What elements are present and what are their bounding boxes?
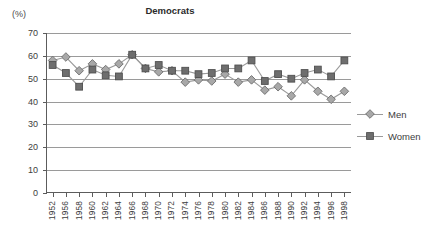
- data-point: [116, 73, 123, 80]
- data-point: [182, 67, 189, 74]
- x-tick-mark: [92, 193, 93, 197]
- legend: MenWomen: [357, 103, 443, 147]
- x-tick-label: 1992: [300, 201, 309, 220]
- x-tick-mark: [225, 193, 226, 197]
- x-tick-label: 1986: [260, 201, 269, 220]
- data-point: [169, 67, 176, 74]
- x-tick-mark: [159, 193, 160, 197]
- series-layer: [46, 33, 351, 193]
- x-tick-mark: [238, 193, 239, 197]
- x-tick-mark: [106, 193, 107, 197]
- x-tick-mark: [291, 193, 292, 197]
- x-tick-mark: [252, 193, 253, 197]
- x-tick-label: 1984: [247, 201, 256, 220]
- data-point: [261, 78, 268, 85]
- x-tick-label: 1972: [167, 201, 176, 220]
- data-point: [274, 82, 283, 91]
- data-point: [275, 71, 282, 78]
- x-tick-mark: [145, 193, 146, 197]
- x-tick-label: 1964: [114, 201, 123, 220]
- data-point: [248, 57, 255, 64]
- x-tick-label: 1990: [287, 201, 296, 220]
- data-point: [155, 62, 162, 69]
- data-point: [89, 66, 96, 73]
- data-point: [314, 66, 321, 73]
- x-axis: 1952195619581960196219641966196819701972…: [46, 193, 351, 238]
- x-tick-label: 1952: [48, 201, 57, 220]
- x-tick-mark: [66, 193, 67, 197]
- x-tick-label: 1998: [340, 201, 349, 220]
- data-point: [76, 83, 83, 90]
- y-tick-label: 0: [0, 188, 38, 198]
- data-point: [327, 95, 336, 104]
- x-tick-label: 1962: [101, 201, 110, 220]
- x-tick-label: 1956: [61, 201, 70, 220]
- x-tick-mark: [79, 193, 80, 197]
- data-point: [340, 87, 349, 96]
- y-tick-label: 20: [0, 142, 38, 152]
- data-point: [62, 70, 69, 77]
- x-tick-mark: [132, 193, 133, 197]
- x-tick-mark: [212, 193, 213, 197]
- x-tick-label: 1980: [221, 201, 230, 220]
- data-point: [115, 60, 124, 69]
- x-tick-mark: [53, 193, 54, 197]
- x-tick-mark: [278, 193, 279, 197]
- data-point: [328, 73, 335, 80]
- x-tick-label: 1978: [207, 201, 216, 220]
- square-marker-icon: [357, 130, 383, 142]
- x-tick-label: 1996: [327, 201, 336, 220]
- x-tick-mark: [305, 193, 306, 197]
- x-tick-label: 1968: [141, 201, 150, 220]
- y-tick-label: 30: [0, 119, 38, 129]
- data-point: [234, 78, 243, 87]
- diamond-marker-icon: [357, 108, 383, 120]
- x-tick-mark: [199, 193, 200, 197]
- x-tick-mark: [318, 193, 319, 197]
- y-tick-label: 60: [0, 51, 38, 61]
- y-tick-label: 10: [0, 165, 38, 175]
- x-tick-mark: [172, 193, 173, 197]
- x-tick-mark: [119, 193, 120, 197]
- legend-item-men[interactable]: Men: [357, 103, 443, 125]
- y-tick-label: 50: [0, 74, 38, 84]
- data-point: [235, 65, 242, 72]
- x-tick-mark: [344, 193, 345, 197]
- data-point: [208, 70, 215, 77]
- x-tick-label: 1988: [274, 201, 283, 220]
- x-tick-label: 1960: [88, 201, 97, 220]
- x-tick-label: 1970: [154, 201, 163, 220]
- y-tick-label: 70: [0, 28, 38, 38]
- data-point: [341, 57, 348, 64]
- x-tick-mark: [331, 193, 332, 197]
- data-point: [207, 77, 216, 86]
- x-tick-label: 1958: [75, 201, 84, 220]
- x-tick-label: 1994: [313, 201, 322, 220]
- legend-label: Men: [388, 109, 406, 120]
- data-point: [102, 72, 109, 79]
- chart-screenshot: (%) Democrats 706050403020100 1952195619…: [0, 0, 443, 238]
- x-tick-label: 1966: [128, 201, 137, 220]
- data-point: [142, 65, 149, 72]
- x-tick-mark: [185, 193, 186, 197]
- x-tick-label: 1982: [234, 201, 243, 220]
- data-point: [288, 75, 295, 82]
- data-point: [129, 51, 136, 58]
- x-tick-mark: [265, 193, 266, 197]
- data-point: [222, 65, 229, 72]
- x-tick-label: 1974: [181, 201, 190, 220]
- legend-item-women[interactable]: Women: [357, 125, 443, 147]
- data-point: [301, 70, 308, 77]
- data-point: [49, 62, 56, 69]
- chart-title: Democrats: [0, 5, 340, 16]
- data-point: [195, 71, 202, 78]
- y-tick-label: 40: [0, 97, 38, 107]
- x-tick-label: 1976: [194, 201, 203, 220]
- legend-label: Women: [388, 131, 421, 142]
